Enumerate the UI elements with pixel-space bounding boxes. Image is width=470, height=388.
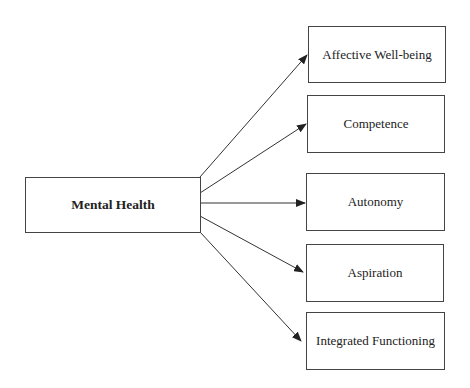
node-label: Autonomy [348,194,404,210]
arrow-to-integrated-functioning [200,232,301,341]
node-label: Affective Well-being [322,47,431,63]
node-mental-health: Mental Health [25,177,201,233]
node-integrated-functioning: Integrated Functioning [306,312,445,370]
node-competence: Competence [307,95,445,153]
node-label: Integrated Functioning [316,333,435,349]
node-label: Mental Health [71,197,155,213]
node-autonomy: Autonomy [306,173,445,231]
node-label: Aspiration [348,265,403,281]
arrow-to-aspiration [200,216,303,272]
node-label: Competence [344,116,409,132]
node-aspiration: Aspiration [306,244,444,302]
node-affective-well-being: Affective Well-being [308,26,446,83]
